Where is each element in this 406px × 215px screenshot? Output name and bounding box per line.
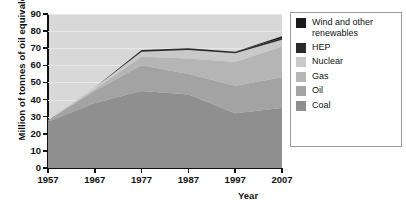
legend-item: Coal xyxy=(296,100,397,111)
y-axis-tick-label: 50 xyxy=(30,78,41,88)
legend-item: Wind and other renewables xyxy=(296,17,397,38)
y-axis-tick-label: 0 xyxy=(36,163,41,173)
stacked-area-series xyxy=(48,14,282,168)
legend-swatch-icon xyxy=(296,57,306,67)
legend-swatch-icon xyxy=(296,43,306,53)
area-series-svg xyxy=(48,14,282,168)
legend-item-label: HEP xyxy=(312,42,331,53)
x-axis-tick-label: 1987 xyxy=(178,175,199,185)
y-axis-tick-label: 60 xyxy=(30,61,41,71)
area-chart: Million of tonnes of oil equivalent 0102… xyxy=(0,0,406,215)
y-axis-tick-label: 20 xyxy=(30,129,41,139)
x-axis-tick-label: 1977 xyxy=(131,175,152,185)
legend-swatch-icon xyxy=(296,18,306,28)
x-axis-tick-label: 2007 xyxy=(271,175,292,185)
legend-item: Oil xyxy=(296,85,397,96)
x-axis-title: Year xyxy=(238,190,258,201)
y-axis-tick-label: 80 xyxy=(30,26,41,36)
x-axis-tick xyxy=(188,168,190,173)
x-axis-tick xyxy=(94,168,96,173)
legend-item: Nuclear xyxy=(296,56,397,67)
plot-area: 0102030405060708090 19571967197719871997… xyxy=(48,14,282,168)
chart-legend: Wind and other renewablesHEPNuclearGasOi… xyxy=(290,12,402,147)
x-axis-tick xyxy=(281,168,283,173)
legend-item: HEP xyxy=(296,42,397,53)
x-axis-tick xyxy=(141,168,143,173)
x-axis-tick-label: 1967 xyxy=(84,175,105,185)
legend-item-label: Gas xyxy=(312,71,329,82)
legend-swatch-icon xyxy=(296,101,306,111)
legend-item: Gas xyxy=(296,71,397,82)
legend-item-label: Wind and other renewables xyxy=(312,17,397,38)
legend-swatch-icon xyxy=(296,86,306,96)
y-axis-tick-label: 40 xyxy=(30,95,41,105)
y-axis-tick-label: 30 xyxy=(30,112,41,122)
x-axis-tick xyxy=(47,168,49,173)
y-axis-tick-label: 10 xyxy=(30,146,41,156)
x-axis-tick xyxy=(234,168,236,173)
y-axis-tick-label: 70 xyxy=(30,43,41,53)
legend-item-label: Coal xyxy=(312,100,331,111)
y-axis-title: Million of tonnes of oil equivalent xyxy=(16,0,27,141)
y-axis-tick-label: 90 xyxy=(30,9,41,19)
x-axis-tick-label: 1997 xyxy=(225,175,246,185)
legend-item-label: Nuclear xyxy=(312,56,343,67)
legend-item-label: Oil xyxy=(312,85,323,96)
legend-swatch-icon xyxy=(296,72,306,82)
x-axis-tick-label: 1957 xyxy=(37,175,58,185)
